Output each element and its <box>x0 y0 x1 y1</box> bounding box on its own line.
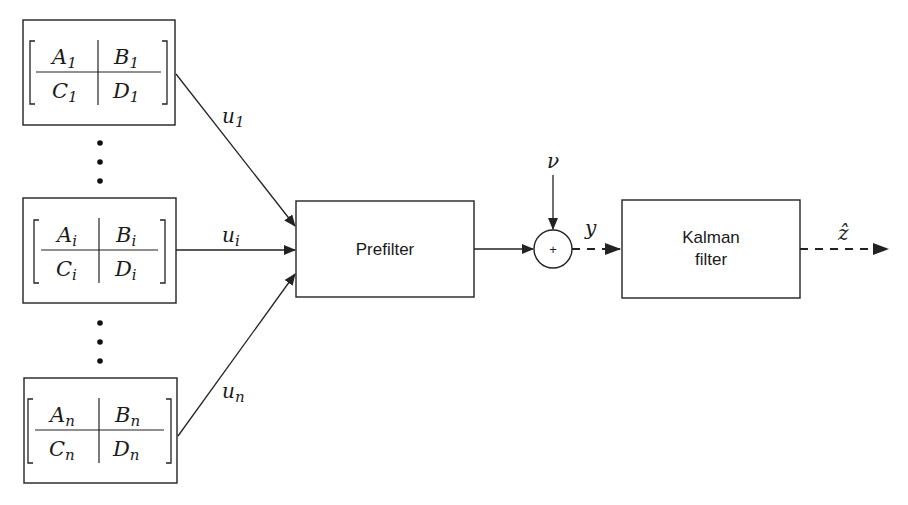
svg-text:D1: D1 <box>112 79 139 106</box>
state-space-block-n: An Bn Cn Dn <box>24 378 177 483</box>
kalman-filter-block: Kalman filter <box>622 200 800 298</box>
svg-text:Bi: Bi <box>115 223 136 250</box>
estimate-label: ẑ <box>837 221 849 245</box>
ellipsis-dots-upper <box>97 140 103 184</box>
ellipsis-dots-lower <box>97 320 103 364</box>
matrix-c-n: C <box>49 437 65 461</box>
state-space-block-1: A1 B1 C1 D1 <box>23 20 175 125</box>
matrix-a-i: A <box>55 223 72 247</box>
matrix-c-1: C <box>52 79 68 103</box>
svg-text:B1: B1 <box>113 45 139 72</box>
svg-text:Dn: Dn <box>112 437 140 464</box>
state-space-block-i: Ai Bi Ci Di <box>23 198 176 303</box>
signal-u1-arrow <box>176 74 295 226</box>
kalman-label-line1: Kalman <box>682 228 740 247</box>
matrix-b-1: B <box>113 45 129 69</box>
matrix-d-1: D <box>112 79 130 103</box>
svg-text:ui: ui <box>222 223 240 250</box>
svg-text:Ai: Ai <box>55 223 77 250</box>
svg-text:Ci: Ci <box>56 257 77 284</box>
kalman-label-line2: filter <box>695 250 727 269</box>
right-bracket-icon <box>160 220 165 283</box>
svg-text:un: un <box>222 379 245 406</box>
plus-icon: + <box>549 242 557 257</box>
svg-text:Cn: Cn <box>49 437 75 464</box>
prefilter-block: Prefilter <box>296 201 474 297</box>
noise-label: ν <box>547 149 559 173</box>
left-bracket-icon <box>28 399 33 463</box>
left-bracket-icon <box>34 220 39 283</box>
right-bracket-icon <box>162 41 167 104</box>
svg-text:Bn: Bn <box>114 403 140 430</box>
matrix-a-n: A <box>48 403 65 427</box>
summing-junction: + <box>534 230 572 268</box>
right-bracket-icon <box>166 399 171 463</box>
matrix-b-i: B <box>115 223 131 247</box>
signal-label-un: u <box>222 379 235 403</box>
svg-text:A1: A1 <box>50 45 77 72</box>
svg-text:An: An <box>48 403 75 430</box>
signal-label-ui: u <box>222 223 235 247</box>
signal-un-arrow <box>178 274 295 436</box>
matrix-b-n: B <box>114 403 130 427</box>
svg-text:u1: u1 <box>222 104 244 131</box>
matrix-d-i: D <box>114 257 132 281</box>
matrix-d-n: D <box>112 437 130 461</box>
measurement-label: y <box>584 216 597 240</box>
signal-label-u1: u <box>222 104 235 128</box>
prefilter-label: Prefilter <box>356 240 415 259</box>
block-diagram: A1 B1 C1 D1 Ai Bi Ci Di An Bn Cn Dn <box>0 0 908 505</box>
svg-text:C1: C1 <box>52 79 78 106</box>
svg-text:Di: Di <box>114 257 137 284</box>
matrix-a-1: A <box>50 45 67 69</box>
matrix-c-i: C <box>56 257 72 281</box>
left-bracket-icon <box>30 41 35 104</box>
